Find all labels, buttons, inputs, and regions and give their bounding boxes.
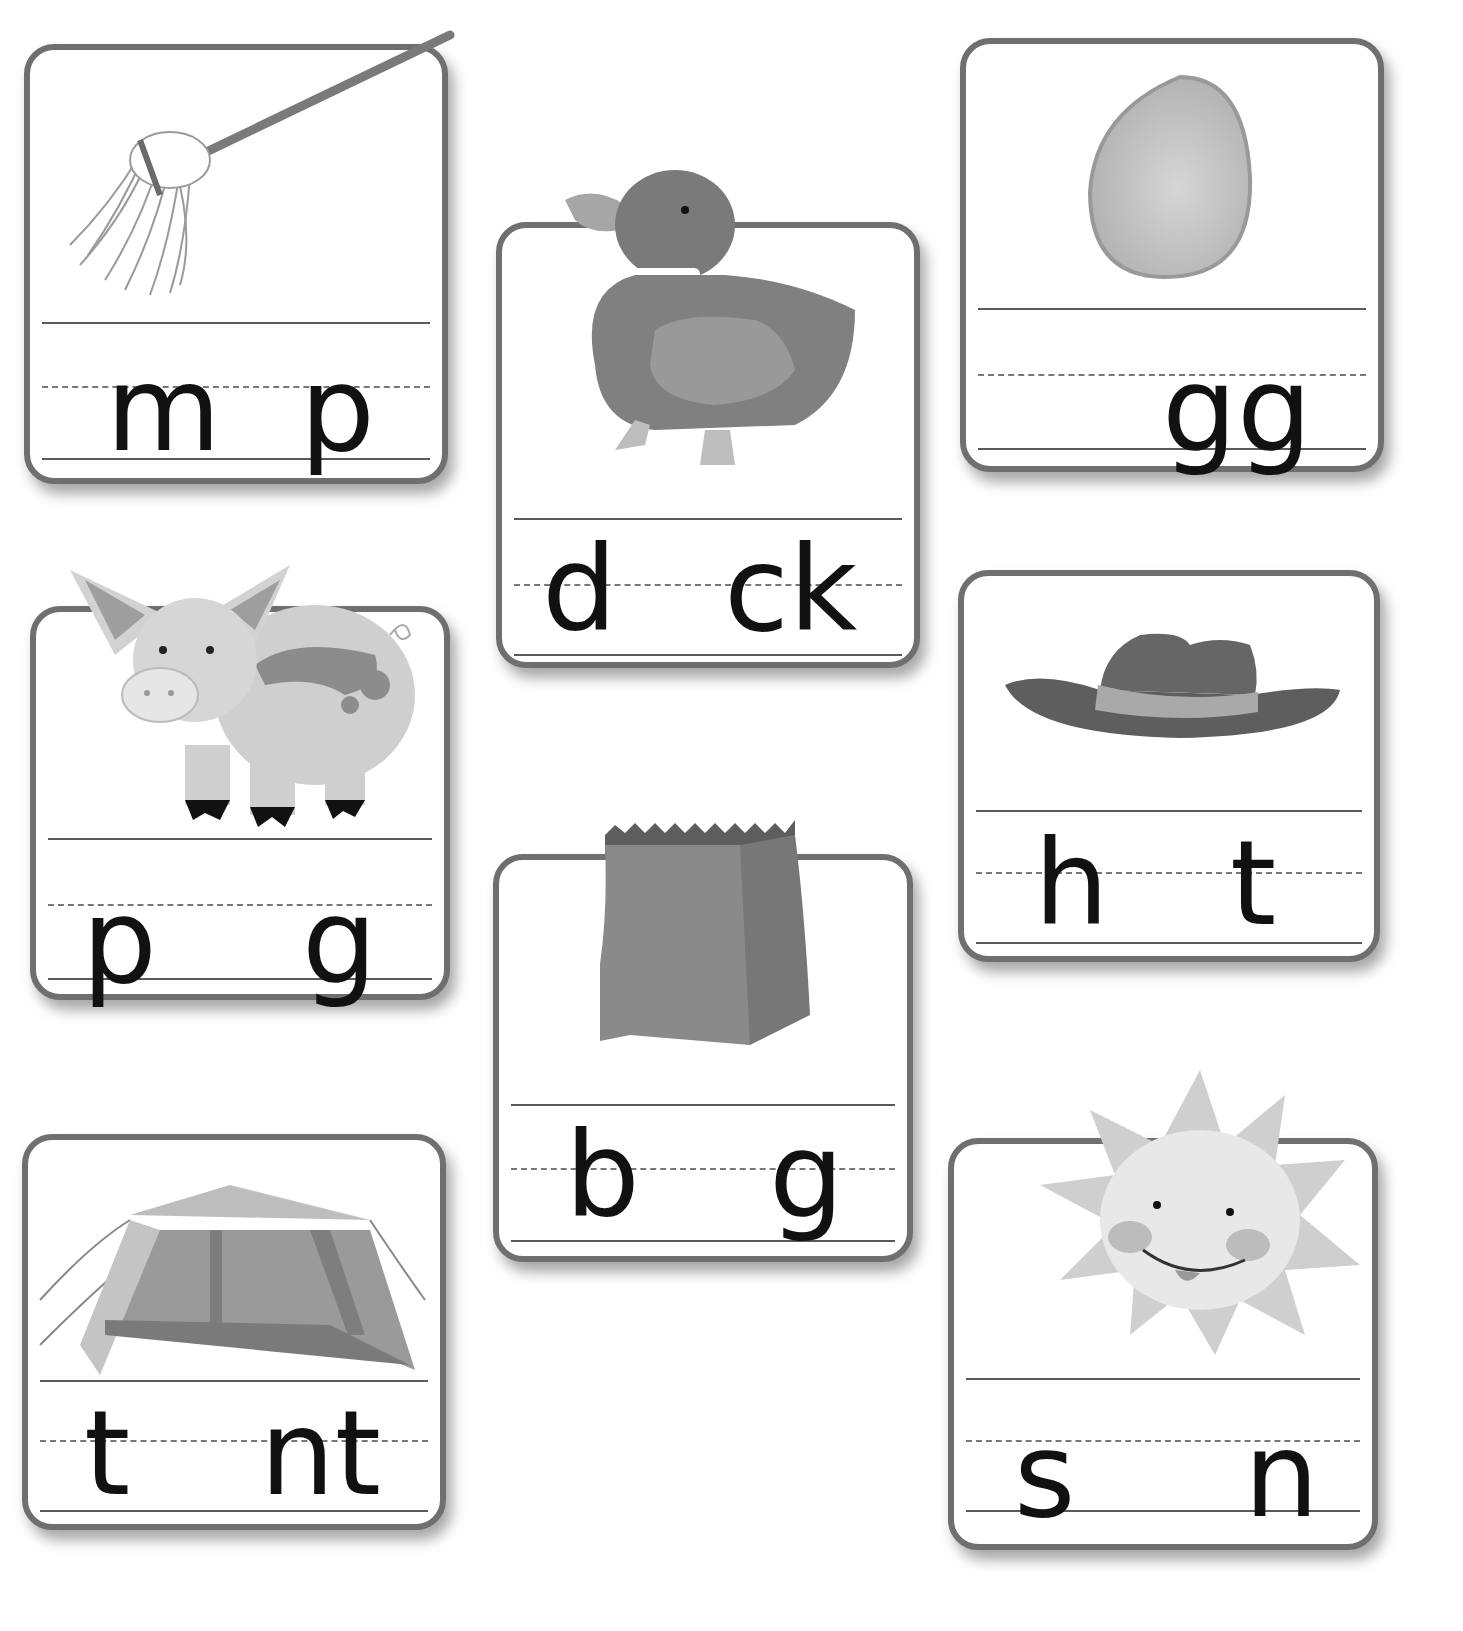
first-letters: m xyxy=(106,350,221,468)
first-letters: b xyxy=(565,1116,640,1234)
first-letters: t xyxy=(84,1394,130,1512)
writing-line-top xyxy=(48,838,432,840)
card-hat: h t xyxy=(958,570,1380,962)
last-letters: nt xyxy=(260,1394,381,1512)
last-letters: t xyxy=(1230,824,1276,942)
writing-line-top xyxy=(976,810,1362,812)
last-letters: gg xyxy=(1162,350,1312,468)
first-letters: s xyxy=(1014,1416,1075,1534)
last-letters: n xyxy=(1244,1416,1319,1534)
hat-icon xyxy=(1000,630,1345,740)
first-letters: h xyxy=(1034,824,1109,942)
first-letters: d xyxy=(542,530,617,648)
egg-icon xyxy=(1085,72,1265,287)
mop-icon xyxy=(50,25,460,305)
last-letters: p xyxy=(300,350,375,468)
first-letters: p xyxy=(82,882,157,1000)
writing-line-top xyxy=(978,308,1366,310)
tent-icon xyxy=(30,1155,430,1375)
writing-line-top xyxy=(40,1380,428,1382)
bag-icon xyxy=(600,815,810,1055)
writing-line-top xyxy=(42,322,430,324)
sun-icon xyxy=(1030,1065,1370,1355)
last-letters: g xyxy=(302,882,377,1000)
pig-icon xyxy=(55,555,425,835)
last-letters: ck xyxy=(724,530,857,648)
writing-line-top xyxy=(966,1378,1360,1380)
duck-icon xyxy=(555,150,875,480)
last-letters: g xyxy=(769,1116,844,1234)
